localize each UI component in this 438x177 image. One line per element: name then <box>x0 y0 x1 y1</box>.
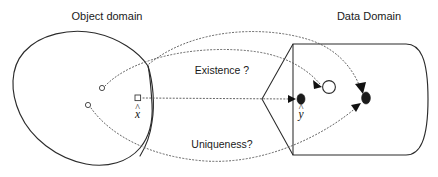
object-domain-label: Object domain <box>72 10 143 22</box>
data-point-open-circle <box>323 81 336 94</box>
data-domain-label: Data Domain <box>337 10 401 22</box>
y-hat-label: y <box>297 108 304 121</box>
existence-label: Existence ? <box>195 64 249 76</box>
x-hat-label: x <box>134 108 141 120</box>
x-hat-marker <box>135 95 141 101</box>
figure-background <box>0 0 438 177</box>
object-point-lower-marker <box>85 102 90 107</box>
uniqueness-label: Uniqueness? <box>191 138 252 150</box>
object-point-upper-marker <box>99 85 104 90</box>
diagram-canvas: Object domain Data Domain Existence ? Un… <box>0 0 438 177</box>
figure-root: Object domain Data Domain Existence ? Un… <box>0 0 438 177</box>
data-point-filled <box>362 92 371 104</box>
